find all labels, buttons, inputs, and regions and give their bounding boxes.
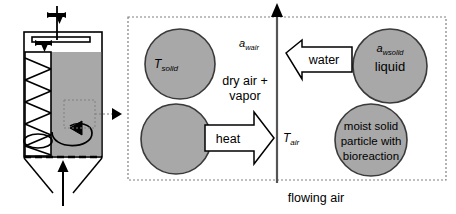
flowing-air-axis — [271, 3, 283, 183]
figure-bottom-caption: flowing air — [288, 191, 344, 205]
bioreactor-vessel — [24, 6, 122, 206]
center-text-line1: dry air + — [222, 74, 268, 88]
callout-pointer-icon — [112, 108, 122, 120]
water-arrow-label: water — [308, 53, 340, 67]
hopper-right-wall — [73, 158, 102, 193]
particle-bottom-right-caption-line3: bioreaction — [343, 150, 399, 162]
heat-arrow-label: heat — [216, 132, 241, 146]
particle-bottom-right-caption-line1: moist solid — [344, 120, 398, 132]
particle-bottom-left — [141, 104, 211, 174]
particle-bottom-right-caption-line2: particle with — [341, 135, 402, 147]
hopper-left-wall — [24, 158, 53, 193]
center-text-line2: vapor — [229, 89, 260, 103]
air-inlet-arrow-icon — [58, 160, 69, 206]
axis-top-label: awair — [239, 37, 259, 52]
particle-top-right-caption: liquid — [375, 59, 405, 74]
figure-canvas: Tsolid awair dry air + vapor Tair water … — [0, 0, 456, 214]
magnified-transfer-panel: Tsolid awair dry air + vapor Tair water … — [128, 3, 446, 183]
axis-bottom-label: Tair — [283, 131, 300, 147]
